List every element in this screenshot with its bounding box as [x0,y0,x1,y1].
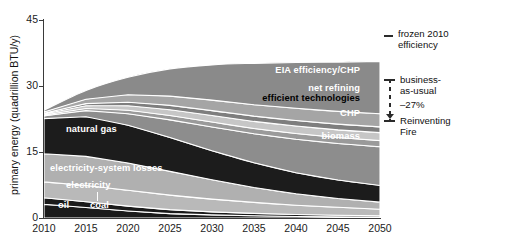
band-label-efficient-technologies: efficient technologies [0,93,360,103]
y-tick-mark-0 [39,218,43,219]
band-label-natural-gas: natural gas [66,124,117,134]
legend-reinventing-fire: Reinventing Fire [400,115,518,137]
x-tick-label-2010: 2010 [24,222,64,234]
x-tick-label-2030: 2030 [192,222,232,234]
band-label-coal: coal [90,200,109,210]
bracket-bottom-icon [384,120,395,122]
band-label-electricity: electricity [66,180,111,190]
y-tick-mark-45 [39,20,43,21]
y-tick-mark-30 [39,86,43,87]
legend: frozen 2010 efficiency business- as-usua… [384,14,520,134]
bracket-arrow-down-icon [386,114,394,119]
x-tick-label-2035: 2035 [234,222,274,234]
band-label-electricity-system-losses: electricity-system losses [50,163,163,173]
chart-figure: 4530150 primary energy (quadrillion BTU/… [0,0,520,250]
coal-leader-line [97,192,98,201]
x-axis-ticks: 201020152020202520302035204020452050 [0,222,520,240]
x-tick-label-2015: 2015 [66,222,106,234]
band-label-eia-efficiency-chp: EIA efficiency/CHP [0,65,360,75]
y-tick-mark-15 [39,152,43,153]
band-label-oil: oil [58,200,69,210]
x-tick-label-2045: 2045 [318,222,358,234]
band-label-net-refining: net refining [0,83,360,93]
legend-frozen-2010-efficiency: frozen 2010 efficiency [398,28,516,50]
band-label-eia-structural-changes: EIA structural changes [0,38,360,48]
legend-business-as-usual: business- as-usual [400,74,518,96]
band-label-biomass: biomass [0,131,360,141]
x-tick-label-2025: 2025 [150,222,190,234]
legend-reduction-percent: –27% [400,99,518,110]
y-axis-line [43,19,44,219]
x-tick-label-2050: 2050 [360,222,400,234]
x-tick-label-2040: 2040 [276,222,316,234]
frozen-efficiency-dash-icon [384,35,393,37]
x-tick-label-2020: 2020 [108,222,148,234]
band-label-chp: CHP [0,108,360,118]
x-axis-line [43,218,381,219]
